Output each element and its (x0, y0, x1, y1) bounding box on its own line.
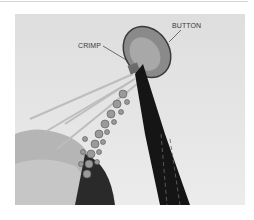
button-label: BUTTON (172, 22, 201, 29)
beaded-strand (79, 90, 130, 178)
photo-illustration (15, 14, 245, 205)
crimp-label: CRIMP (78, 42, 101, 49)
top-rule (0, 1, 248, 2)
button-leader (169, 30, 181, 42)
photo: CRIMP BUTTON (15, 14, 245, 205)
pliers (135, 64, 190, 205)
